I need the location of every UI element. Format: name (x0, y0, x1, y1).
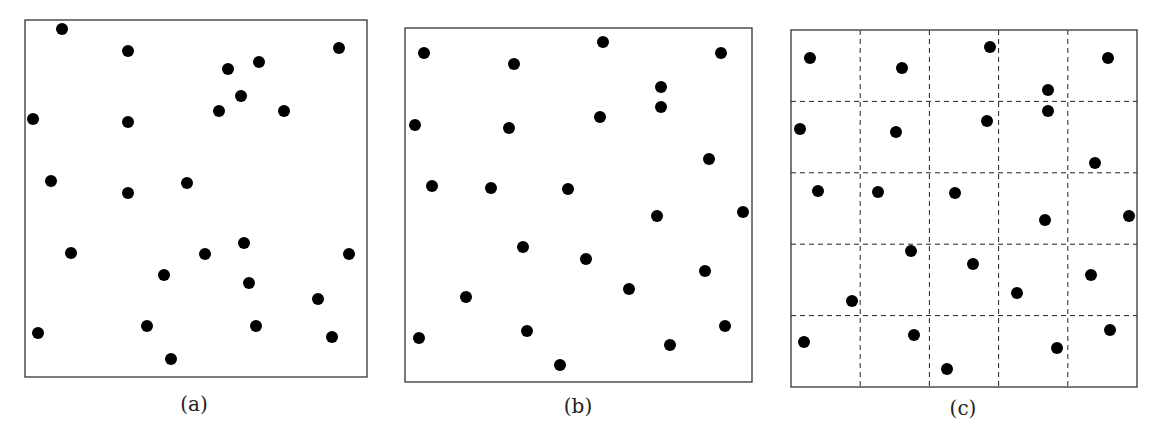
point-dot (122, 45, 134, 57)
point-dot (278, 105, 290, 117)
point-dot (1011, 287, 1023, 299)
panel-frame (405, 28, 752, 382)
point-dot (580, 253, 592, 265)
point-dot (655, 81, 667, 93)
point-dot (32, 327, 44, 339)
point-dot (460, 291, 472, 303)
point-dot (326, 331, 338, 343)
point-dot (413, 332, 425, 344)
panel-frame (791, 30, 1137, 387)
point-dot (343, 248, 355, 260)
point-dot (250, 320, 262, 332)
point-dot (594, 111, 606, 123)
point-dot (199, 248, 211, 260)
point-dot (1042, 84, 1054, 96)
point-dot (56, 23, 68, 35)
point-dot (1089, 157, 1101, 169)
point-dot (122, 187, 134, 199)
point-dot (1051, 342, 1063, 354)
point-dot (27, 113, 39, 125)
caption-c: (c) (933, 396, 993, 420)
point-dot (1102, 52, 1114, 64)
point-dot (562, 183, 574, 195)
point-dot (798, 336, 810, 348)
point-dot (333, 42, 345, 54)
point-dot (45, 175, 57, 187)
point-dot (981, 115, 993, 127)
point-dot (664, 339, 676, 351)
point-dot (165, 353, 177, 365)
panel-frame (25, 20, 367, 377)
point-dot (418, 47, 430, 59)
point-dot (521, 325, 533, 337)
point-dot (122, 116, 134, 128)
point-dot (655, 101, 667, 113)
point-dot (908, 329, 920, 341)
point-dot (651, 210, 663, 222)
point-dot (426, 180, 438, 192)
point-dot (804, 52, 816, 64)
point-dot (967, 258, 979, 270)
point-dot (719, 320, 731, 332)
quadrat-grid (791, 30, 1137, 387)
point-dot (941, 363, 953, 375)
point-dot (503, 122, 515, 134)
point-dot (235, 90, 247, 102)
point-dot (949, 187, 961, 199)
point-dot (222, 63, 234, 75)
point-dot (517, 241, 529, 253)
point-dot (158, 269, 170, 281)
point-dot (703, 153, 715, 165)
point-dot (554, 359, 566, 371)
point-dot (213, 105, 225, 117)
point-dot (243, 277, 255, 289)
panel-b (405, 28, 752, 382)
point-dot (485, 182, 497, 194)
point-dot (984, 41, 996, 53)
point-dot (1039, 214, 1051, 226)
point-dot (890, 126, 902, 138)
point-dot (1123, 210, 1135, 222)
point-dot (1104, 324, 1116, 336)
point-dot (1085, 269, 1097, 281)
point-dot (623, 283, 635, 295)
point-dot (737, 206, 749, 218)
point-dot (812, 185, 824, 197)
point-dot (312, 293, 324, 305)
point-dot (715, 47, 727, 59)
point-dot (1042, 105, 1054, 117)
point-dot (699, 265, 711, 277)
point-dot (846, 295, 858, 307)
point-dot (794, 123, 806, 135)
point-dot (181, 177, 193, 189)
point-dot (597, 36, 609, 48)
point-dot (896, 62, 908, 74)
point-dot (409, 119, 421, 131)
point-dot (65, 247, 77, 259)
point-dot (872, 186, 884, 198)
caption-b: (b) (548, 394, 608, 418)
figure-canvas (0, 0, 1154, 428)
point-dot (508, 58, 520, 70)
panel-a (25, 20, 367, 377)
caption-a: (a) (164, 392, 224, 416)
point-dot (141, 320, 153, 332)
point-dot (253, 56, 265, 68)
panel-c (791, 30, 1137, 387)
point-dot (238, 237, 250, 249)
point-dot (905, 245, 917, 257)
